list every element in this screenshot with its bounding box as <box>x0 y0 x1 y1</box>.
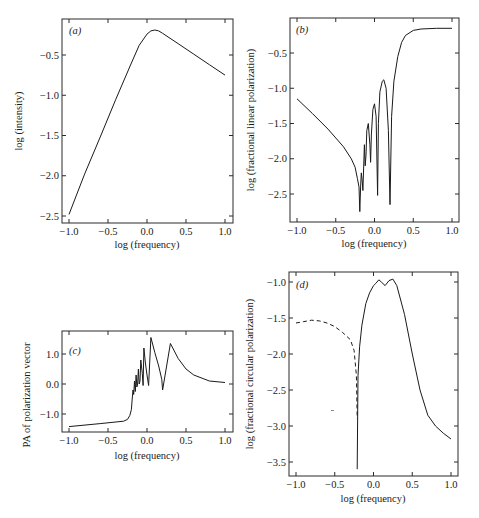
x-axis-label-b: log (frequency) <box>341 238 407 250</box>
x-axis-label-d: log (frequency) <box>340 493 406 505</box>
panel-b: −1.0−0.50.00.51.0−0.5−1.0−1.5−2.0−2.5 (b… <box>245 18 459 250</box>
y-axis-label-d: log (fractional circular polarization) <box>244 298 256 449</box>
y-tick-label: 0.0 <box>46 379 59 390</box>
curve-b-linear-polarization <box>297 28 452 211</box>
x-tick-label: −0.5 <box>98 435 117 446</box>
panel-label-b: (b) <box>296 24 309 36</box>
panel-d: −1.0−0.50.00.51.0−1.0−1.5−2.0−2.5−3.0−3.… <box>244 272 458 505</box>
curve-d-negative-dashed <box>296 320 357 419</box>
panel-label-a: (a) <box>69 25 82 37</box>
x-tick-label: 0.0 <box>140 226 153 237</box>
x-tick-label: 0.0 <box>367 479 380 490</box>
x-tick-label: −1.0 <box>59 226 78 237</box>
x-tick-label: 0.5 <box>406 479 419 490</box>
x-tick-label: −1.0 <box>286 479 305 490</box>
x-tick-label: −0.5 <box>98 226 117 237</box>
curve-a-intensity <box>69 30 225 214</box>
plot-frame-a <box>62 19 233 223</box>
y-tick-label: −2.0 <box>267 349 286 360</box>
y-tick-label: 1.0 <box>46 349 59 360</box>
y-tick-label: −1.0 <box>40 90 59 101</box>
figure: −1.0−0.50.00.51.0−0.5−1.0−1.5−2.0−2.5 (a… <box>0 0 479 518</box>
y-tick-label: −2.5 <box>268 189 287 200</box>
x-tick-label: 0.5 <box>407 225 420 236</box>
plot-frame-d <box>289 272 458 476</box>
y-tick-label: −2.5 <box>40 211 59 222</box>
y-axis-label-a: log (intensity) <box>13 91 25 151</box>
y-tick-label: −2.0 <box>268 153 287 164</box>
panel-c: −1.0−0.50.00.51.01.00.0−1.0 (c) log (fre… <box>21 331 233 462</box>
panel-label-c: (c) <box>69 345 81 357</box>
plot-frame-b <box>290 18 459 222</box>
curve-d-positive-solid <box>357 279 451 469</box>
y-axis-label-b: log (fractional linear polarization) <box>245 48 257 191</box>
x-tick-label: 1.0 <box>444 479 457 490</box>
x-axis-label-a: log (frequency) <box>114 239 180 251</box>
y-tick-label: −1.5 <box>268 118 287 129</box>
x-tick-label: 0.5 <box>179 226 192 237</box>
y-tick-label: −1.0 <box>268 83 287 94</box>
panel-a: −1.0−0.50.00.51.0−0.5−1.0−1.5−2.0−2.5 (a… <box>13 19 233 251</box>
panel-label-d: (d) <box>296 279 309 291</box>
x-tick-label: −1.0 <box>287 225 306 236</box>
y-tick-label: −0.5 <box>40 50 59 61</box>
y-tick-label: −1.5 <box>267 313 286 324</box>
x-tick-label: −0.5 <box>326 225 345 236</box>
x-tick-label: 0.0 <box>368 225 381 236</box>
y-tick-label: −2.0 <box>40 170 59 181</box>
x-tick-label: 1.0 <box>218 435 231 446</box>
x-tick-label: −1.0 <box>59 435 78 446</box>
y-tick-label: −2.5 <box>267 385 286 396</box>
x-tick-label: 1.0 <box>445 225 458 236</box>
x-tick-label: 0.5 <box>179 435 192 446</box>
y-tick-label: −1.5 <box>40 130 59 141</box>
ticks-b: −1.0−0.50.00.51.0−0.5−1.0−1.5−2.0−2.5 <box>268 18 459 236</box>
x-tick-label: −0.5 <box>325 479 344 490</box>
x-tick-label: 0.0 <box>140 435 153 446</box>
y-axis-label-c: PA of polarization vector <box>21 342 32 447</box>
curve-c-position-angle <box>69 338 225 427</box>
y-tick-label: −1.0 <box>267 277 286 288</box>
y-tick-label: −3.5 <box>267 457 286 468</box>
x-axis-label-c: log (frequency) <box>114 450 180 462</box>
x-tick-label: 1.0 <box>218 226 231 237</box>
stray-mark <box>331 410 334 411</box>
y-tick-label: −0.5 <box>268 48 287 59</box>
y-tick-label: −1.0 <box>40 409 59 420</box>
y-tick-label: −3.0 <box>267 421 286 432</box>
ticks-d: −1.0−0.50.00.51.0−1.0−1.5−2.0−2.5−3.0−3.… <box>267 272 458 490</box>
